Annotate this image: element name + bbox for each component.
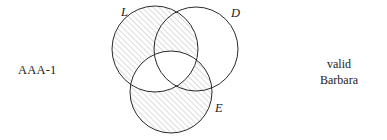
venn-diagram: L D E [100, 0, 260, 140]
diagram-page: AAA-1 [0, 0, 387, 140]
shaded-region-E-minus-L [100, 0, 260, 140]
syllogism-form-label: AAA-1 [18, 63, 57, 78]
venn-diagram-svg: L D E [100, 0, 260, 140]
circle-label-D: D [230, 6, 240, 20]
validity-status: valid [296, 56, 382, 72]
verdict-block: valid Barbara [296, 56, 382, 88]
circle-label-L: L [120, 5, 128, 19]
syllogism-mood-name: Barbara [296, 72, 382, 88]
circle-label-E: E [214, 101, 223, 115]
